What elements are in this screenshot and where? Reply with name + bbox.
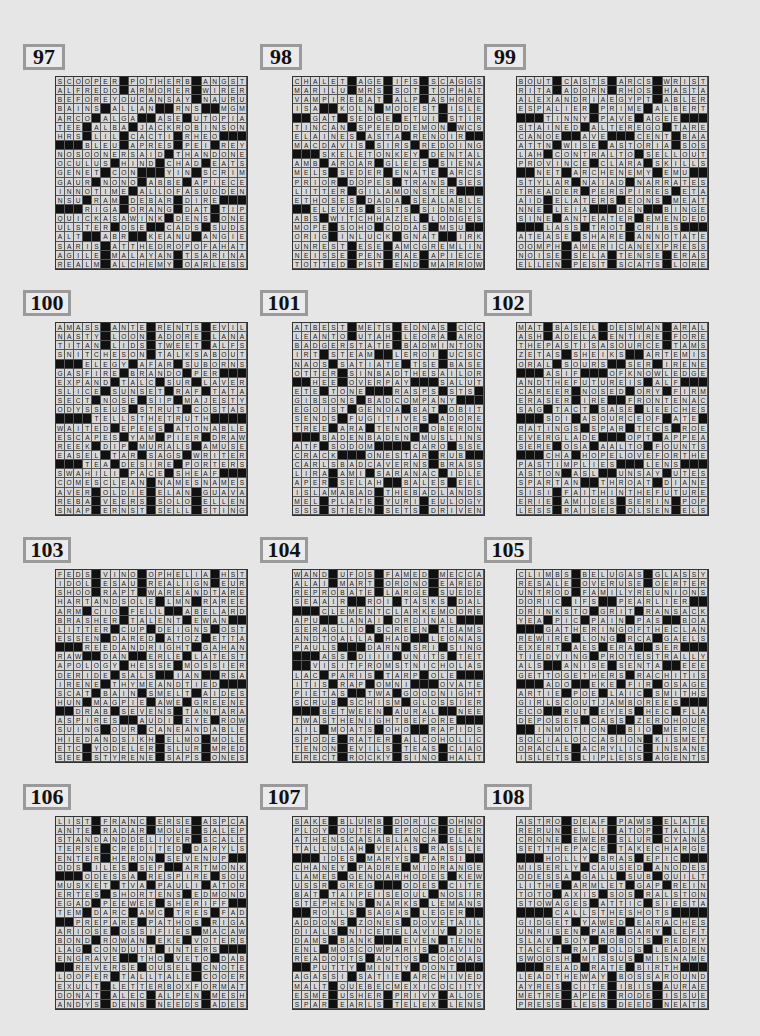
letter-square: A [663, 918, 672, 927]
letter-square: E [238, 588, 247, 597]
letter-square: O [526, 251, 535, 260]
letter-square: E [56, 854, 65, 863]
black-square [229, 899, 238, 908]
letter-square: O [83, 114, 92, 123]
letter-square: T [608, 963, 617, 972]
letter-square: V [174, 954, 183, 963]
letter-square: P [402, 826, 411, 835]
letter-square: A [229, 433, 238, 442]
letter-square: E [320, 872, 329, 881]
letter-square: E [111, 369, 120, 378]
letter-square: A [608, 141, 617, 150]
letter-square: I [393, 77, 402, 86]
letter-square: S [517, 735, 526, 744]
letter-square: S [420, 104, 429, 113]
letter-square: H [56, 698, 65, 707]
letter-square: R [120, 232, 129, 241]
black-square [111, 881, 120, 890]
letter-square: S [338, 835, 347, 844]
letter-square: T [466, 982, 475, 991]
letter-square: A [429, 396, 438, 405]
letter-square: P [74, 378, 83, 387]
letter-square: O [429, 716, 438, 725]
letter-square: N [475, 506, 484, 515]
black-square [156, 634, 165, 643]
letter-square: E [457, 251, 466, 260]
letter-square: C [156, 908, 165, 917]
letter-square: P [302, 478, 311, 487]
letter-square: O [572, 698, 581, 707]
letter-square: P [535, 104, 544, 113]
black-square [192, 168, 201, 177]
letter-square: R [357, 1000, 366, 1009]
letter-square: O [402, 881, 411, 890]
letter-square: S [535, 579, 544, 588]
letter-square: O [138, 77, 147, 86]
letter-square: E [590, 214, 599, 223]
letter-square: T [429, 652, 438, 661]
letter-square: R [544, 588, 553, 597]
letter-square: H [562, 954, 571, 963]
letter-square: I [229, 232, 238, 241]
black-square [147, 698, 156, 707]
letter-square: N [302, 634, 311, 643]
letter-square: P [238, 826, 247, 835]
letter-square: E [129, 963, 138, 972]
black-square [663, 323, 672, 332]
letter-square: A [156, 991, 165, 1000]
letter-square: E [644, 451, 653, 460]
black-square [439, 350, 448, 359]
letter-square: E [165, 661, 174, 670]
letter-square: I [375, 414, 384, 423]
letter-square: C [384, 625, 393, 634]
black-square [608, 433, 617, 442]
letter-square: I [366, 360, 375, 369]
letter-square: I [366, 716, 375, 725]
black-square [393, 232, 402, 241]
black-square [535, 963, 544, 972]
letter-square: Y [238, 396, 247, 405]
letter-square: A [562, 963, 571, 972]
puzzle-solution: 107SAKEBLURBDORICOHNOPLOYOUTEREPOCHDEERA… [260, 784, 500, 1034]
letter-square: F [202, 242, 211, 251]
letter-square: A [147, 178, 156, 187]
letter-square: O [202, 405, 211, 414]
letter-square: O [429, 123, 438, 132]
black-square [111, 927, 120, 936]
letter-square: E [238, 232, 247, 241]
letter-square: N [293, 251, 302, 260]
letter-square: T [329, 114, 338, 123]
letter-square: E [411, 104, 420, 113]
letter-square: N [211, 123, 220, 132]
letter-square: R [229, 607, 238, 616]
letter-square: O [526, 242, 535, 251]
letter-square: A [348, 360, 357, 369]
black-square [572, 396, 581, 405]
letter-square: T [608, 899, 617, 908]
black-square [617, 196, 626, 205]
letter-square: I [183, 872, 192, 881]
letter-square: N [690, 588, 699, 597]
letter-square: U [192, 360, 201, 369]
black-square [56, 872, 65, 881]
letter-square: A [111, 104, 120, 113]
letter-square: A [366, 634, 375, 643]
crossword-grid: AMASSANTERENTSEVILNASTYLOONADORELANATITA… [55, 322, 248, 516]
letter-square: R [174, 387, 183, 396]
letter-square: B [320, 707, 329, 716]
black-square [220, 369, 229, 378]
letter-square: H [183, 150, 192, 159]
letter-square: E [220, 698, 229, 707]
letter-square: T [526, 232, 535, 241]
letter-square: A [111, 323, 120, 332]
letter-square: I [429, 205, 438, 214]
letter-square: R [120, 918, 129, 927]
letter-square: S [608, 196, 617, 205]
letter-square: L [302, 132, 311, 141]
letter-square: L [165, 597, 174, 606]
letter-square: R [644, 497, 653, 506]
letter-square: N [635, 661, 644, 670]
letter-square: A [238, 387, 247, 396]
letter-square: T [357, 725, 366, 734]
letter-square: L [590, 469, 599, 478]
